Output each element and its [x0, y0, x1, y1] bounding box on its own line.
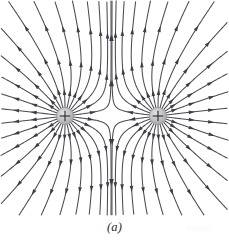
field-direction-arrow [175, 58, 179, 64]
field-direction-arrow [30, 118, 36, 122]
field-direction-arrow [73, 92, 77, 98]
field-direction-arrow [123, 151, 127, 157]
field-direction-arrow [151, 60, 155, 66]
field-direction-arrow [171, 109, 177, 113]
field-direction-arrow [50, 189, 54, 195]
field-direction-arrow [166, 93, 171, 99]
field-direction-arrow [208, 108, 214, 112]
field-direction-arrow [58, 58, 61, 64]
field-direction-arrow [189, 118, 195, 122]
field-direction-arrow [171, 161, 175, 167]
field-direction-arrow [24, 25, 29, 31]
field-direction-arrow [170, 104, 176, 109]
field-direction-arrow [187, 93, 193, 98]
field-direction-arrow [114, 182, 118, 188]
field-line [164, 52, 228, 110]
field-direction-arrow [97, 151, 101, 157]
field-direction-arrow [13, 109, 19, 113]
field-direction-arrow [130, 186, 134, 192]
field-direction-arrow [171, 119, 177, 123]
field-direction-arrow [166, 133, 171, 139]
field-direction-arrow [157, 26, 160, 32]
field-direction-arrow [106, 32, 110, 38]
field-direction-arrow [13, 144, 19, 149]
field-direction-arrow [79, 61, 83, 67]
field-direction-arrow [57, 89, 61, 95]
field-direction-arrow [99, 30, 103, 36]
figure-caption: (a) [0, 221, 229, 234]
field-line [1, 122, 59, 176]
field-direction-arrow [141, 187, 145, 193]
field-line [72, 121, 101, 215]
field-direction-arrow [44, 58, 48, 64]
field-direction-arrow [45, 25, 49, 31]
field-direction-arrow [72, 132, 76, 138]
field-direction-arrow [32, 95, 38, 100]
field-direction-arrow [65, 188, 69, 194]
field-direction-arrow [62, 26, 65, 32]
field-direction-arrow [32, 189, 37, 195]
field-direction-arrow [59, 160, 62, 166]
field-direction-arrow [147, 132, 151, 138]
field-direction-arrow [154, 188, 158, 194]
field-direction-arrow [106, 182, 110, 188]
field-direction-arrow [14, 84, 20, 89]
field-direction-arrow [169, 189, 173, 195]
field-direction-arrow [99, 184, 103, 190]
field-direction-arrow [188, 126, 194, 130]
field-direction-arrow [188, 103, 194, 107]
field-direction-arrow [162, 89, 166, 95]
left-charge: + [57, 108, 74, 125]
field-direction-arrow [48, 123, 54, 128]
field-line [19, 124, 63, 215]
field-line [69, 1, 81, 109]
field-direction-arrow [53, 132, 58, 138]
field-line [164, 122, 228, 180]
field-direction-arrow [122, 68, 126, 74]
field-direction-arrow [207, 81, 213, 86]
field-direction-arrow [174, 25, 178, 31]
field-direction-arrow [30, 111, 36, 115]
field-direction-arrow [207, 146, 213, 151]
field-direction-arrow [146, 92, 150, 98]
field-direction-arrow [69, 60, 73, 66]
field-direction-arrow [114, 32, 118, 38]
field-direction-arrow [78, 187, 82, 193]
field-direction-arrow [140, 61, 144, 67]
field-direction-arrow [48, 104, 54, 109]
field-lines-svg: ++ [0, 0, 229, 246]
field-direction-arrow [208, 132, 214, 136]
right-charge: + [150, 108, 167, 125]
field-line [122, 121, 151, 215]
field-direction-arrow [31, 104, 37, 108]
field-direction-arrow [162, 58, 165, 64]
field-line [9, 2, 63, 108]
field-direction-arrow [86, 105, 92, 109]
field-line [1, 56, 59, 110]
field-direction-arrow [58, 134, 62, 140]
field-direction-arrow [161, 134, 165, 140]
field-direction-arrow [98, 68, 102, 74]
field-line [160, 2, 214, 108]
field-line [160, 124, 204, 215]
field-direction-arrow [84, 122, 90, 126]
field-arrows-layer [13, 25, 215, 195]
field-direction-arrow [131, 104, 137, 108]
field-direction-arrow [160, 160, 163, 166]
field-direction-arrow [208, 96, 214, 100]
field-direction-arrow [170, 123, 176, 128]
field-direction-arrow [133, 122, 139, 126]
field-direction-arrow [13, 120, 19, 124]
field-direction-arrow [208, 120, 214, 124]
field-direction-arrow [121, 30, 125, 36]
field-direction-arrow [47, 161, 51, 167]
field-direction-arrow [31, 125, 37, 129]
field-direction-arrow [187, 134, 193, 139]
field-direction-arrow [53, 94, 58, 100]
field-direction-arrow [88, 154, 92, 160]
field-direction-arrow [13, 131, 19, 135]
field-direction-arrow [187, 189, 192, 195]
field-direction-arrow [120, 184, 124, 190]
field-direction-arrow [189, 111, 195, 115]
electric-field-figure: ++ (a) [0, 0, 229, 246]
